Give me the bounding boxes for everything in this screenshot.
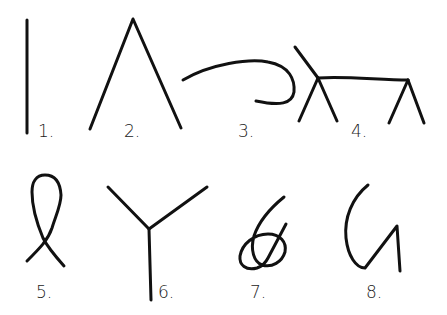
shape-2-inverted-v bbox=[90, 19, 181, 129]
label-7: 7. bbox=[250, 282, 266, 302]
shape-3-curl bbox=[183, 61, 294, 104]
label-2: 2. bbox=[124, 121, 140, 141]
shape-7-knot bbox=[240, 197, 286, 269]
label-8: 8. bbox=[366, 282, 382, 302]
label-4: 4. bbox=[351, 121, 367, 141]
label-1: 1. bbox=[38, 121, 54, 141]
label-6: 6. bbox=[158, 282, 174, 302]
label-3: 3. bbox=[238, 121, 254, 141]
figure-canvas bbox=[0, 0, 447, 315]
shape-8-hook-zigzag bbox=[346, 185, 400, 271]
shape-4-stick-table bbox=[295, 47, 424, 123]
shape-5-ribbon-loop bbox=[27, 175, 64, 266]
label-5: 5. bbox=[36, 282, 52, 302]
